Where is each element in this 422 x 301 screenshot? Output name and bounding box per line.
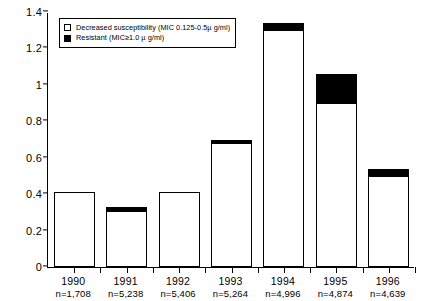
y-axis-tick-label: 0 [36, 262, 48, 273]
bar-segment-resistant [368, 169, 409, 176]
x-axis-tick-mark [100, 267, 101, 273]
chart-legend: Decreased susceptibility (MIC 0.125-0.5µ… [59, 18, 236, 48]
x-axis-tick-mark [205, 267, 206, 273]
bar-1990 [54, 192, 95, 267]
y-axis-tick-label: 0.4 [26, 189, 48, 200]
x-axis-label-count: n=5,264 [204, 288, 256, 300]
x-axis-label-year: 1993 [204, 276, 256, 288]
x-axis-label-1993: 1993n=5,264 [204, 276, 256, 299]
x-axis-label-count: n=5,238 [99, 288, 151, 300]
legend-swatch-black-icon [64, 35, 71, 42]
x-axis-label-1995: 1995n=4,874 [309, 276, 361, 299]
legend-label-resistant: Resistant (MIC≥1.0 µ g/ml) [76, 34, 164, 42]
y-axis-tick-label: 1.2 [26, 43, 48, 54]
bar-segment-decreased-susceptibility [263, 30, 304, 267]
x-axis-tick-mark [74, 267, 75, 273]
bar-segment-resistant [106, 207, 147, 211]
x-axis-tick-mark [336, 267, 337, 273]
x-axis-label-count: n=5,406 [152, 288, 204, 300]
x-axis-label-count: n=4,874 [309, 288, 361, 300]
x-axis-label-year: 1990 [47, 276, 99, 288]
x-axis-tick-mark [284, 267, 285, 273]
bar-segment-resistant [211, 140, 252, 144]
bar-segment-decreased-susceptibility [159, 192, 200, 267]
x-axis-tick-mark [415, 267, 416, 273]
bar-1995 [316, 74, 357, 267]
bar-segment-resistant [316, 74, 357, 103]
x-axis-label-count: n=4,996 [257, 288, 309, 300]
x-axis-label-year: 1992 [152, 276, 204, 288]
chart-container: 00.20.40.60.811.21.4 Decreased susceptib… [0, 0, 422, 301]
y-axis-tick-label: 0.8 [26, 116, 48, 127]
bar-segment-decreased-susceptibility [368, 176, 409, 267]
bar-series-group [48, 13, 414, 267]
bar-1994 [263, 23, 304, 267]
y-axis-tick-label: 1.4 [26, 7, 48, 18]
x-axis-tick-mark [258, 267, 259, 273]
x-axis-label-year: 1994 [257, 276, 309, 288]
x-axis-label-1991: 1991n=5,238 [99, 276, 151, 299]
x-axis-tick-mark [153, 267, 154, 273]
y-axis-tick-label: 0.2 [26, 225, 48, 236]
legend-label-decreased-susceptibility: Decreased susceptibility (MIC 0.125-0.5µ… [76, 24, 230, 32]
x-axis-label-1992: 1992n=5,406 [152, 276, 204, 299]
bar-1993 [211, 140, 252, 268]
plot-area: 00.20.40.60.811.21.4 Decreased susceptib… [47, 13, 414, 268]
legend-item-resistant: Resistant (MIC≥1.0 µ g/ml) [64, 33, 230, 43]
bar-segment-resistant [263, 23, 304, 30]
bar-segment-decreased-susceptibility [211, 143, 252, 267]
x-axis-labels: 1990n=1,7081991n=5,2381992n=5,4061993n=5… [47, 276, 414, 301]
bar-segment-decreased-susceptibility [54, 192, 95, 267]
bar-1996 [368, 169, 409, 267]
x-axis-tick-mark [310, 267, 311, 273]
x-axis-label-1990: 1990n=1,708 [47, 276, 99, 299]
legend-item-decreased-susceptibility: Decreased susceptibility (MIC 0.125-0.5µ… [64, 23, 230, 33]
x-axis-tick-mark [127, 267, 128, 273]
bar-segment-decreased-susceptibility [106, 211, 147, 267]
x-axis-tick-mark [363, 267, 364, 273]
y-axis-tick-label: 0.6 [26, 152, 48, 163]
x-axis-label-year: 1996 [362, 276, 414, 288]
x-axis-tick-mark [179, 267, 180, 273]
legend-swatch-white-icon [64, 24, 71, 31]
x-axis-tick-mark [389, 267, 390, 273]
x-axis-label-1994: 1994n=4,996 [257, 276, 309, 299]
bar-segment-decreased-susceptibility [316, 103, 357, 267]
bar-1992 [159, 192, 200, 267]
x-axis-label-year: 1991 [99, 276, 151, 288]
x-axis-label-count: n=1,708 [47, 288, 99, 300]
x-axis-label-year: 1995 [309, 276, 361, 288]
x-axis-tick-mark [232, 267, 233, 273]
x-axis-label-count: n=4,639 [362, 288, 414, 300]
bar-1991 [106, 207, 147, 267]
x-axis-label-1996: 1996n=4,639 [362, 276, 414, 299]
y-axis-tick-label: 1 [36, 79, 48, 90]
